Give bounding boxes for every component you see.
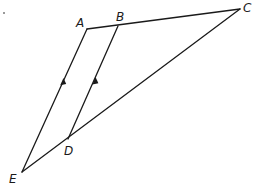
- triangle-diagram: A B C D E: [0, 0, 257, 183]
- segment-CE: [22, 9, 240, 172]
- stray-dot: [3, 12, 5, 14]
- label-A: A: [75, 16, 84, 30]
- label-D: D: [64, 144, 73, 158]
- segment-BD: [68, 26, 118, 139]
- segment-AE: [22, 29, 87, 172]
- label-B: B: [116, 10, 124, 24]
- parallel-arrow-icon-AE: [60, 78, 66, 85]
- label-C: C: [243, 1, 252, 15]
- label-E: E: [9, 172, 17, 183]
